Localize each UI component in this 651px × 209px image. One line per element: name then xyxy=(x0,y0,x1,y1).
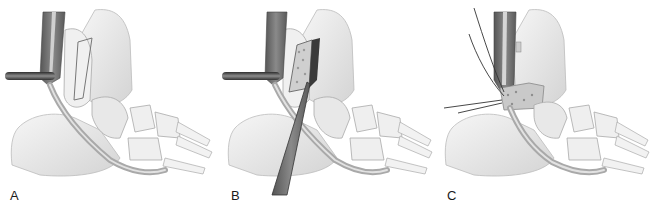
panel-c-illustration xyxy=(434,0,651,209)
navicular xyxy=(130,105,155,132)
panel-label-c: C xyxy=(447,188,456,203)
talus xyxy=(534,102,567,138)
talus xyxy=(314,97,350,138)
retractor-instrument xyxy=(5,72,55,80)
panel-c: C xyxy=(434,0,651,209)
cuboid xyxy=(128,138,162,160)
panel-a: A xyxy=(0,0,217,209)
panel-label-a: A xyxy=(10,188,19,203)
panel-label-b: B xyxy=(231,188,240,203)
retractor-instrument xyxy=(222,72,280,80)
panel-a-illustration xyxy=(0,0,217,209)
cuneiform xyxy=(155,112,180,138)
panel-b: B xyxy=(217,0,434,209)
panel-b-illustration xyxy=(217,0,434,209)
surgical-figure: A B xyxy=(0,0,651,209)
